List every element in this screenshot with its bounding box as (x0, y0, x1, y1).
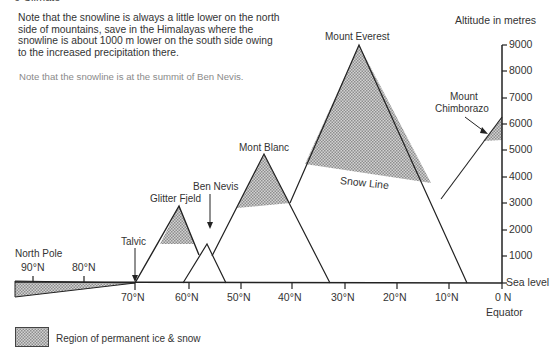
chimborazo-outline (441, 117, 502, 199)
legend-label: Region of permanent ice & snow (56, 333, 201, 344)
alt-tick-8000: 8000 (509, 64, 532, 76)
snowline-note: Note that the snowline is always a littl… (18, 12, 283, 58)
mount-everest-label: Mount Everest (325, 31, 389, 42)
glitter-fjeld-label: Glitter Fjeld (150, 193, 201, 204)
ben-nevis-arrow (207, 194, 213, 229)
alt-tick-6000: 6000 (509, 117, 532, 129)
alt-tick-2000: 2000 (509, 223, 532, 235)
chimborazo-label-line2: Chimborazo (435, 103, 489, 114)
alt-tick-sea-level: Sea level (506, 276, 549, 288)
equator-label: Equator (486, 306, 523, 318)
mont-blanc-snow (237, 154, 290, 208)
alt-tick-5000: 5000 (509, 143, 532, 155)
chimborazo-label-line1: Mount (450, 91, 478, 102)
alt-tick-1000: 1000 (509, 249, 532, 261)
snow-line-label: Snow Line (339, 174, 389, 191)
alt-tick-4000: 4000 (509, 170, 532, 182)
alt-tick-3000: 3000 (509, 196, 532, 208)
north-pole-label: North Pole (15, 248, 62, 259)
chimborazo-arrow (465, 117, 488, 134)
lat-tick-50: 50°N (227, 291, 250, 303)
alt-tick-7000: 7000 (509, 91, 532, 103)
ben-nevis-label: Ben Nevis (193, 181, 239, 192)
lat-tick-10: 10°N (435, 291, 458, 303)
talvic-arrow (132, 248, 138, 282)
lat-tick-40: 40°N (278, 291, 301, 303)
altitude-axis-title: Altitude in metres (455, 14, 536, 26)
page-header: 6 Climate (14, 0, 60, 3)
lat-tick-80: 80°N (72, 261, 95, 273)
ben-nevis-note: Note that the snowline is at the summit … (19, 71, 244, 82)
ben-nevis-outline (183, 244, 226, 283)
lat-tick-30: 30°N (331, 291, 354, 303)
polar-ice-region (15, 281, 135, 297)
lat-tick-90: 90°N (21, 261, 44, 273)
lat-tick-0: 0 N (495, 291, 511, 303)
mont-blanc-label: Mont Blanc (239, 142, 289, 153)
lat-tick-70: 70°N (121, 291, 144, 303)
legend-swatch (15, 327, 49, 347)
glitter-fjeld-snow (160, 206, 194, 244)
alt-tick-9000: 9000 (509, 38, 532, 50)
lat-tick-20: 20°N (383, 291, 406, 303)
lat-tick-60: 60°N (175, 291, 198, 303)
talvic-label: Talvic (121, 236, 146, 247)
